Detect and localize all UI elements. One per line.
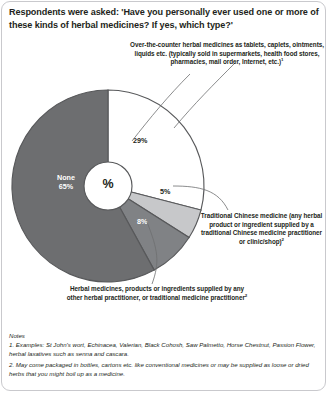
leader-line-herbal-practitioner (147, 222, 157, 284)
callout-label-herbal-practitioner: Herbal medicines, products or ingredient… (62, 285, 252, 302)
leader-line-otc-2 (174, 62, 236, 128)
callout-label-otc-footnote: 1 (281, 57, 283, 62)
callout-label-otc-text: Over-the-counter herbal medicines as tab… (130, 41, 324, 65)
callout-label-tcm: Traditional Chinese medicine (any herbal… (198, 212, 325, 246)
leader-line-tcm (173, 186, 228, 210)
callout-label-herbal-practitioner-text: Herbal medicines, products or ingredient… (67, 285, 245, 301)
callout-label-tcm-text: Traditional Chinese medicine (any herbal… (201, 212, 322, 245)
notes-heading: Notes (9, 331, 321, 340)
callout-label-herbal-practitioner-footnote: 2 (245, 292, 247, 297)
notes-section: Notes 1. Examples: St John's wort, Echin… (9, 331, 321, 378)
leader-line-otc (132, 74, 190, 141)
note-1: 1. Examples: St John's wort, Echinacea, … (9, 340, 321, 358)
callout-label-otc: Over-the-counter herbal medicines as tab… (129, 41, 325, 67)
callout-label-tcm-footnote: 2 (282, 237, 284, 242)
note-2: 2. May come packaged in bottles, cartons… (9, 360, 321, 378)
